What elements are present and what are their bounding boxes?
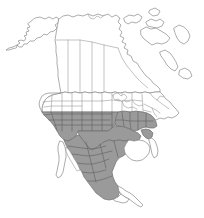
range-area-florida <box>141 129 153 139</box>
region-alaska <box>17 17 59 47</box>
region-canada <box>55 14 160 93</box>
aleutian-tail <box>6 45 17 50</box>
greenland-margin <box>174 25 190 44</box>
distribution-map-figure <box>0 0 204 218</box>
arctic-island-west <box>124 14 142 24</box>
baffin-island <box>141 27 170 45</box>
region-yucatan-peninsula <box>124 140 150 161</box>
region-baja-california <box>56 141 66 178</box>
north-america-map <box>0 0 204 218</box>
labrador-coast <box>160 50 178 71</box>
arctic-island-east <box>146 19 164 28</box>
arctic-island-north <box>149 8 160 16</box>
newfoundland-island <box>179 68 192 79</box>
